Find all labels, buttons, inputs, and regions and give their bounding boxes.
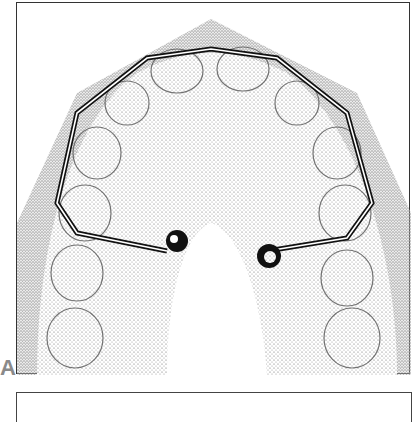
figure-panel-b-frame — [16, 392, 412, 422]
dental-arch-illustration — [17, 3, 411, 375]
figure-panel-a — [16, 2, 410, 374]
panel-label: A — [0, 355, 16, 381]
